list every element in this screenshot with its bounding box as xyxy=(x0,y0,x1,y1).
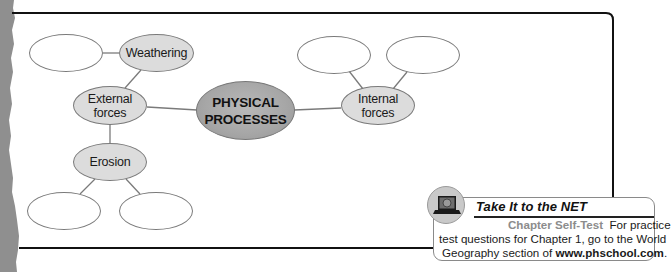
node-external-forces: External forces xyxy=(73,86,147,125)
net-badge xyxy=(427,186,465,224)
net-line-1: Chapter Self-Test For practice xyxy=(508,218,671,232)
chapter-self-test-label: Chapter Self-Test xyxy=(508,218,603,231)
blank-node-erosion-right[interactable] xyxy=(119,192,193,230)
phschool-link[interactable]: www.phschool.com xyxy=(555,246,663,259)
blank-node-weathering-detail[interactable] xyxy=(29,34,103,72)
net-title: Take It to the NET xyxy=(476,199,587,214)
blank-node-internal-left[interactable] xyxy=(297,36,371,74)
net-line-3: Geography section of www.phschool.com. xyxy=(442,246,667,260)
blank-node-internal-right[interactable] xyxy=(386,36,460,74)
node-physical-processes: PHYSICAL PROCESSES xyxy=(196,81,295,140)
node-weathering: Weathering xyxy=(119,34,194,72)
node-erosion: Erosion xyxy=(73,143,147,181)
node-internal-forces: Internal forces xyxy=(341,86,415,125)
net-line-2: test questions for Chapter 1, go to the … xyxy=(439,232,666,246)
laptop-globe-icon xyxy=(428,187,466,225)
blank-node-erosion-left[interactable] xyxy=(27,192,101,230)
